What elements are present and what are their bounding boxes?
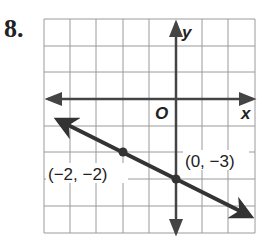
point-0-neg3 — [172, 175, 181, 184]
point-label-0-neg3: (0, −3) — [185, 152, 235, 171]
point-neg2-neg2 — [119, 148, 128, 157]
x-axis-label: x — [240, 104, 252, 123]
point-label-neg2-neg2: (−2, −2) — [48, 165, 108, 184]
origin-label: O — [155, 104, 168, 123]
coordinate-graph: y x O (−2, −2) (0, −3) — [0, 0, 267, 251]
y-axis-label: y — [181, 23, 193, 42]
